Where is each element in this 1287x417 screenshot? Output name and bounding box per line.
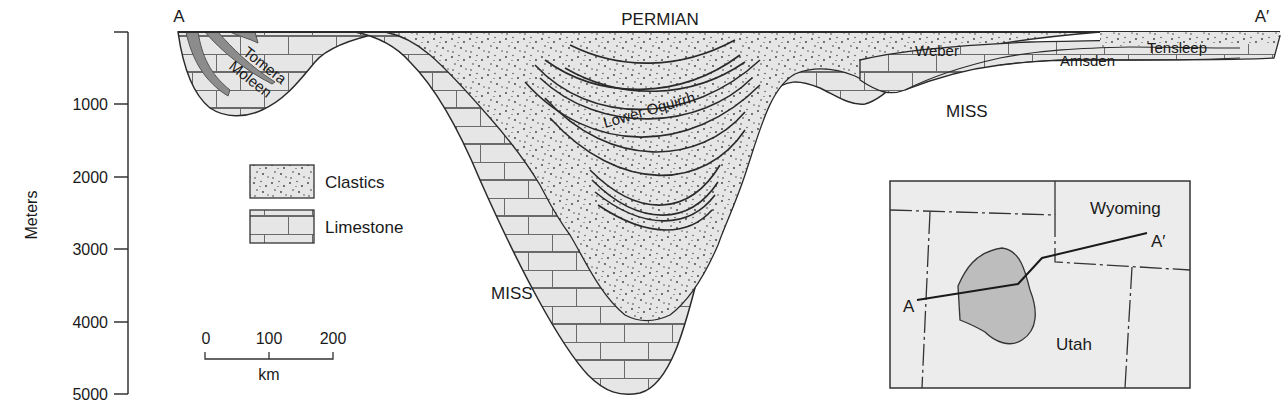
- legend-swatch-limestone: [250, 210, 314, 243]
- legend-label-limestone: Limestone: [325, 218, 403, 237]
- inset-line-end-a-prime: A′: [1151, 232, 1166, 251]
- y-axis-label: Meters: [23, 191, 40, 240]
- legend-swatch-clastics: [250, 165, 314, 198]
- y-tick-4000: 4000: [72, 314, 108, 331]
- scale-unit: km: [258, 366, 279, 383]
- inset-line-start-a: A: [903, 297, 915, 316]
- inset-label-wyoming: Wyoming: [1090, 199, 1161, 218]
- formation-miss-right: MISS: [946, 102, 988, 121]
- inset-label-utah: Utah: [1056, 335, 1092, 354]
- scale-tick-100: 100: [256, 330, 283, 347]
- inset-map: A A′ Wyoming Utah: [890, 181, 1190, 388]
- legend: Clastics Limestone: [250, 165, 403, 243]
- y-axis: 1000 2000 3000 4000 5000 Meters: [23, 32, 128, 403]
- scale-tick-0: 0: [202, 330, 211, 347]
- formation-amsden: Amsden: [1060, 52, 1115, 69]
- scale-bar: 0 100 200 km: [202, 330, 347, 383]
- section-end-a-prime: A′: [1255, 7, 1270, 26]
- y-tick-5000: 5000: [72, 386, 108, 403]
- formation-permian: PERMIAN: [621, 10, 698, 29]
- cross-section-diagram: 1000 2000 3000 4000 5000 Meters: [0, 0, 1287, 417]
- scale-tick-200: 200: [320, 330, 347, 347]
- legend-label-clastics: Clastics: [325, 173, 385, 192]
- formation-tensleep: Tensleep: [1147, 39, 1207, 56]
- y-tick-1000: 1000: [72, 96, 108, 113]
- formation-miss-left: MISS: [491, 284, 533, 303]
- y-tick-3000: 3000: [72, 241, 108, 258]
- formation-weber: Weber: [915, 42, 959, 59]
- section-end-a: A: [173, 7, 185, 26]
- y-tick-2000: 2000: [72, 169, 108, 186]
